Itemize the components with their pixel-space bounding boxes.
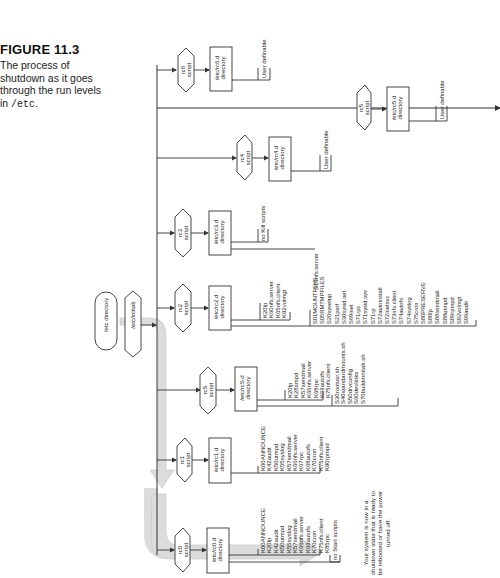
rc2-start-scripts: S01MOUNTFSYS S05RMTMPFILES S20sysetup S2…: [312, 276, 470, 324]
rc6-user-definable: User definable: [261, 39, 267, 78]
rc6-directory-node: /etc/rc6.d directory: [214, 48, 227, 88]
rc3-directory-node: /etc/rc3.d directory: [213, 212, 226, 252]
rc5-script-node: rc5 script: [358, 94, 371, 122]
rc3-no-kill-scripts: no Kill scripts: [260, 206, 266, 241]
rc5-directory-node: /etc/rc5.d directory: [391, 88, 404, 128]
rc4-user-definable: User definable: [323, 130, 329, 169]
rc0-script-node: rc0 script: [177, 536, 190, 564]
rc5-user-definable: User definable: [439, 80, 445, 119]
rc1-script-node: rc1 script: [179, 446, 192, 474]
rc0-directory-node: /etc/rc0.d directory: [211, 530, 224, 570]
rcS-directory-node: /etc/rcS.d directory: [239, 368, 252, 408]
etc-directory-label: /etc directory: [103, 290, 109, 340]
rcS-kill-scripts: K20lp K28smpd K57sendmail K66nfs.server …: [287, 361, 332, 398]
rc2-script-node: rc2 script: [177, 294, 190, 322]
rc0-kill-scripts: K00ANNOUNCE K20lp K42audit K50utmpd K55s…: [260, 508, 330, 553]
rc4-script-node: rc4 script: [239, 144, 252, 172]
inittab-label: /etc/inittab: [130, 290, 136, 340]
rcS-script-node: rcS script: [202, 376, 215, 404]
rc2-directory-node: /etc/rc2.d directory: [213, 287, 226, 327]
rc1-kill-scripts: K00ANNOUNCE K42audit K50utmpd K55syslog …: [260, 426, 330, 471]
final-shutdown-note: Your system is now in a shutdown state t…: [362, 488, 391, 578]
rc0-no-start-scripts: no Start scripts: [332, 520, 338, 560]
rc3-script-node: rc3 script: [177, 219, 190, 247]
rc4-directory-node: /etc/rc4.d directory: [273, 138, 286, 178]
rcS-start-scripts: S30rootusr.sh S40standardmounts.sh S50dr…: [334, 342, 366, 404]
rc2-kill-scripts: K20lp K60nfs.server K65nfs.client K92vol…: [262, 281, 288, 318]
rc6-script-node: rc6 script: [180, 56, 193, 84]
rc1-directory-node: /etc/rc1.d directory: [213, 440, 226, 480]
